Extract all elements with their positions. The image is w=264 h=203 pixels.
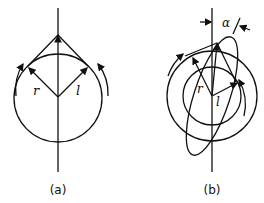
rotation-arrow-left (16, 64, 23, 96)
vector-l (58, 68, 87, 97)
label-l-a: l (76, 83, 80, 98)
tangent-lines (185, 43, 236, 82)
label-l-b: l (216, 95, 220, 109)
caption-a: (a) (50, 183, 67, 197)
label-r-b: r (197, 82, 204, 96)
caption-b: (b) (204, 183, 221, 197)
ellipse-axis-tick (233, 18, 240, 34)
rotation-arrow-right (98, 64, 108, 96)
alpha-arrow-right (240, 26, 250, 30)
rotation-arrow-right (239, 80, 245, 116)
panel-a (14, 8, 108, 172)
panel-b (167, 8, 257, 172)
label-r-a: r (33, 83, 40, 98)
label-alpha: α (222, 16, 230, 30)
diagram-canvas: r l (a) α r l (b) (0, 0, 264, 203)
rotation-arrow-left (168, 54, 183, 76)
